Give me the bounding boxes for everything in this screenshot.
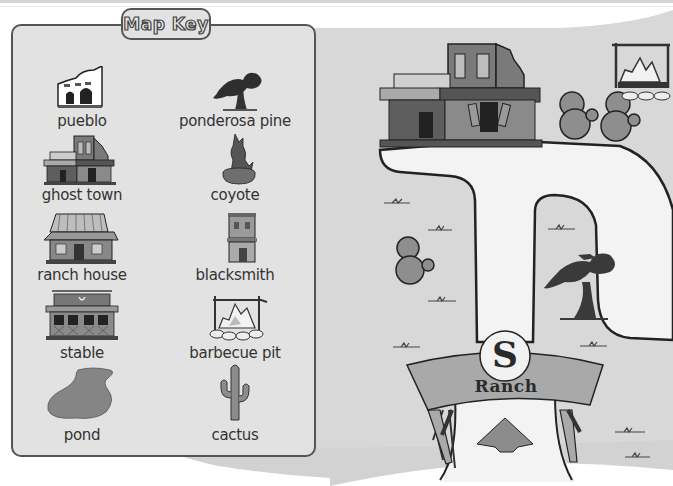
- key-item-barbecue-pit: barbecue pit: [165, 288, 305, 366]
- key-label-blacksmith: blacksmith: [165, 266, 305, 284]
- cactus-icon: [215, 362, 255, 422]
- coyote-icon: [209, 132, 269, 186]
- blacksmith-icon: [211, 210, 271, 266]
- key-label-barbecue-pit: barbecue pit: [165, 344, 305, 362]
- key-label-ghost-town: ghost town: [12, 186, 152, 204]
- key-label-stable: stable: [12, 344, 152, 362]
- ranch-house-icon: [42, 210, 122, 266]
- map-key-title: Map Key: [121, 8, 211, 40]
- key-item-ranch-house: ranch house: [12, 210, 152, 288]
- key-item-ponderosa-pine: ponderosa pine: [165, 62, 305, 132]
- key-label-ponderosa-pine: ponderosa pine: [165, 112, 305, 130]
- pueblo-icon: [54, 66, 114, 114]
- ponderosa-pine-icon: [209, 66, 269, 114]
- key-label-ranch-house: ranch house: [12, 266, 152, 284]
- key-label-coyote: coyote: [165, 186, 305, 204]
- key-item-pond: pond: [12, 366, 152, 446]
- stable-icon: [42, 288, 122, 344]
- key-item-pueblo: pueblo: [12, 62, 152, 132]
- key-label-pond: pond: [12, 426, 152, 444]
- barbecue-pit-icon: [201, 288, 271, 344]
- key-item-blacksmith: blacksmith: [165, 210, 305, 288]
- pond-icon: [46, 366, 126, 422]
- key-item-cactus: cactus: [165, 366, 305, 446]
- ghost-town-icon: [42, 132, 122, 186]
- key-item-ghost-town: ghost town: [12, 132, 152, 210]
- ranch-sign-text: Ranch: [470, 376, 542, 396]
- ranch-sign-letter: S: [491, 334, 519, 374]
- key-item-coyote: coyote: [165, 132, 305, 210]
- key-item-stable: stable: [12, 288, 152, 366]
- key-label-cactus: cactus: [165, 426, 305, 444]
- key-label-pueblo: pueblo: [12, 112, 152, 130]
